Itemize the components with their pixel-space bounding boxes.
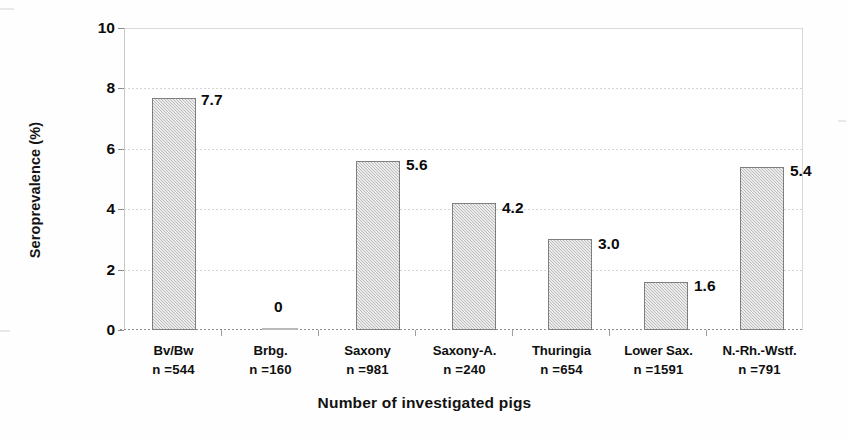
x-category-name-brbg: Brbg. (222, 341, 319, 360)
scan-artifact (0, 330, 10, 332)
bar-label-bv-bw: 7.7 (201, 91, 223, 109)
x-tick-mark-1 (221, 330, 222, 336)
x-category-bv-bw: Bv/Bw n =544 (125, 341, 222, 379)
x-tick-mark-3 (415, 330, 416, 336)
y-tick-6: 6 (106, 140, 115, 158)
bar-brbg (262, 328, 298, 330)
x-axis-title: Number of investigated pigs (0, 394, 849, 412)
x-category-name-thuringia: Thuringia (513, 341, 610, 360)
bar-lower-sax (644, 282, 688, 330)
x-tick-mark-2 (318, 330, 319, 336)
y-tick-mark-2 (118, 270, 124, 271)
x-category-n-saxony: n =981 (319, 360, 416, 379)
gridline-8 (124, 88, 803, 89)
x-category-n-brbg: n =160 (222, 360, 319, 379)
y-axis-ticks: 0 2 4 6 8 10 (0, 0, 124, 438)
x-category-n-thuringia: n =654 (513, 360, 610, 379)
x-category-n-lower-sax: n =1591 (610, 360, 707, 379)
x-category-name-bv-bw: Bv/Bw (125, 341, 222, 360)
y-tick-mark-6 (118, 149, 124, 150)
y-tick-8: 8 (106, 79, 115, 97)
y-tick-10: 10 (98, 19, 115, 37)
x-category-lower-sax: Lower Sax. n =1591 (610, 341, 707, 379)
x-category-saxony-a: Saxony-A. n =240 (416, 341, 513, 379)
y-tick-mark-10 (118, 28, 124, 29)
bar-label-lower-sax: 1.6 (694, 277, 716, 295)
x-tick-mark-4 (512, 330, 513, 336)
bar-saxony-a (452, 203, 496, 330)
y-tick-mark-0 (118, 330, 124, 331)
scan-artifact (0, 8, 14, 10)
y-tick-mark-8 (118, 88, 124, 89)
x-category-name-saxony-a: Saxony-A. (416, 341, 513, 360)
bar-saxony (356, 161, 400, 330)
bar-label-saxony: 5.6 (406, 156, 428, 174)
y-tick-0: 0 (106, 321, 115, 339)
bar-label-brbg: 0 (274, 298, 283, 316)
y-tick-4: 4 (106, 200, 115, 218)
y-tick-mark-4 (118, 209, 124, 210)
bar-n-rh-wstf (740, 167, 784, 330)
plot-frame-top (124, 28, 803, 29)
y-tick-2: 2 (106, 261, 115, 279)
gridline-6 (124, 149, 803, 150)
x-category-name-saxony: Saxony (319, 341, 416, 360)
x-category-thuringia: Thuringia n =654 (513, 341, 610, 379)
x-category-saxony: Saxony n =981 (319, 341, 416, 379)
x-tick-mark-6 (706, 330, 707, 336)
x-category-name-n-rh-wstf: N.-Rh.-Wstf. (707, 341, 812, 360)
x-category-n-saxony-a: n =240 (416, 360, 513, 379)
x-category-n-bv-bw: n =544 (125, 360, 222, 379)
x-category-brbg: Brbg. n =160 (222, 341, 319, 379)
bar-label-thuringia: 3.0 (598, 235, 620, 253)
bar-label-n-rh-wstf: 5.4 (790, 162, 812, 180)
x-tick-mark-5 (609, 330, 610, 336)
scan-artifact (838, 120, 846, 122)
x-category-name-lower-sax: Lower Sax. (610, 341, 707, 360)
chart-figure: Seroprevalence (%) 0 2 4 6 8 10 (0, 0, 849, 438)
bar-thuringia (548, 239, 592, 330)
bar-label-saxony-a: 4.2 (502, 199, 524, 217)
x-category-n-rh-wstf: N.-Rh.-Wstf. n =791 (707, 341, 812, 379)
bar-bv-bw (152, 98, 196, 331)
plot-frame-left (124, 28, 125, 330)
x-category-n-n-rh-wstf: n =791 (707, 360, 812, 379)
plot-area: 7.7 0 5.6 4.2 3.0 1.6 5.4 (124, 28, 803, 330)
